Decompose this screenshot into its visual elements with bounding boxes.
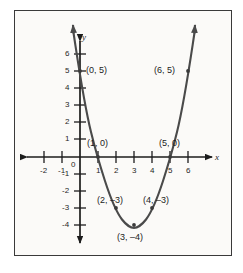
graph-canvas (15, 11, 230, 254)
x-tick-3: 3 (132, 167, 136, 175)
x-tick-5: 5 (168, 167, 172, 175)
y-tick-minus2: -2 (62, 187, 69, 195)
plot-frame: x y -2 -1 0 1 2 3 4 5 6 6 5 4 3 2 1 -1 -… (14, 10, 232, 256)
x-tick-minus2: -2 (40, 167, 47, 175)
parabola-curve (73, 25, 195, 228)
point-4-m3 (150, 206, 154, 210)
y-tick-4: 4 (65, 84, 69, 92)
point-5-0 (168, 155, 172, 159)
point-2-m3 (114, 206, 118, 210)
point-3-m4 (132, 223, 136, 227)
x-tick-4: 4 (150, 167, 154, 175)
x-axis (27, 151, 212, 163)
point-1-0 (96, 155, 100, 159)
x-tick-1: 1 (96, 167, 100, 175)
y-tick-1: 1 (65, 135, 69, 143)
point-label-3-minus4: (3, –4) (117, 233, 143, 242)
point-label-0-5: (0, 5) (86, 66, 107, 75)
y-tick-2: 2 (65, 118, 69, 126)
point-label-1-0: (1, 0) (87, 139, 108, 148)
y-tick-5: 5 (65, 67, 69, 75)
parabola-graph-figure: x y -2 -1 0 1 2 3 4 5 6 6 5 4 3 2 1 -1 -… (0, 0, 243, 273)
x-tick-zero: 0 (71, 161, 75, 169)
x-axis-label: x (215, 153, 219, 162)
y-tick-minus3: -3 (62, 204, 69, 212)
point-label-5-0: (5, 0) (159, 139, 180, 148)
x-tick-6: 6 (186, 167, 190, 175)
point-label-6-5: (6, 5) (154, 66, 175, 75)
point-label-2-minus3: (2, –3) (97, 196, 123, 205)
point-6-5 (186, 69, 190, 73)
y-tick-minus1: -1 (62, 170, 69, 178)
y-tick-6: 6 (65, 50, 69, 58)
point-label-4-minus3: (4, –3) (143, 196, 169, 205)
y-tick-3: 3 (65, 101, 69, 109)
x-tick-2: 2 (114, 167, 118, 175)
y-tick-minus4: -4 (62, 221, 69, 229)
point-0-5 (78, 69, 82, 73)
y-axis-label: y (82, 33, 86, 42)
